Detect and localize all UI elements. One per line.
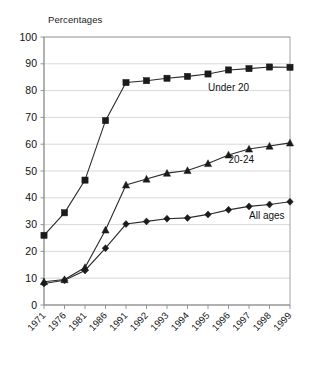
line-chart: Percentages 0102030405060708090100 19711…: [0, 0, 317, 367]
x-tick-label: 1996: [209, 310, 231, 333]
data-point-diamond: [184, 214, 191, 221]
data-point-square: [205, 71, 211, 77]
x-tick-label: 1986: [86, 310, 108, 333]
data-point-triangle: [102, 226, 109, 233]
data-point-diamond: [246, 203, 253, 210]
data-point-square: [184, 73, 190, 79]
y-tick-label: 60: [25, 138, 37, 150]
x-tick-label: 1991: [107, 310, 129, 333]
x-tick-label: 1992: [127, 310, 149, 333]
data-point-square: [143, 78, 149, 84]
data-point-square: [61, 210, 67, 216]
y-tick-label: 90: [25, 57, 37, 69]
data-point-triangle: [286, 139, 293, 146]
series-label: Under 20: [208, 82, 250, 93]
series-label: 20-24: [229, 154, 255, 165]
x-tick-label: 1995: [189, 310, 211, 333]
chart-plot-area: 0102030405060708090100 19711976198119861…: [0, 0, 317, 367]
x-tick-label: 1981: [66, 310, 88, 333]
y-tick-label: 30: [25, 218, 37, 230]
data-series-group: [40, 64, 293, 287]
y-tick-label: 100: [19, 31, 37, 43]
data-point-diamond: [143, 218, 150, 225]
x-axis-ticklabels: 1971197619811986199119921993199419951996…: [25, 305, 293, 333]
y-tick-label: 40: [25, 191, 37, 203]
x-tick-label: 1994: [168, 310, 190, 333]
data-point-diamond: [205, 211, 212, 218]
y-tick-label: 0: [31, 299, 37, 311]
x-tick-label: 1993: [148, 310, 170, 333]
data-point-square: [246, 66, 252, 72]
x-tick-label: 1999: [271, 310, 293, 333]
data-point-diamond: [287, 198, 294, 205]
data-point-square: [102, 118, 108, 124]
x-tick-label: 1997: [230, 310, 252, 333]
data-point-square: [123, 79, 129, 85]
x-tick-label: 1971: [25, 310, 47, 333]
x-tick-label: 1998: [250, 310, 272, 333]
data-point-square: [266, 64, 272, 70]
y-tick-label: 50: [25, 165, 37, 177]
y-tick-label: 80: [25, 84, 37, 96]
y-tick-label: 20: [25, 245, 37, 257]
series-label: All ages: [249, 210, 285, 221]
data-point-square: [225, 67, 231, 73]
data-point-square: [287, 64, 293, 70]
y-tick-label: 70: [25, 111, 37, 123]
x-tick-label: 1976: [45, 310, 67, 333]
data-point-square: [82, 177, 88, 183]
data-point-square: [164, 75, 170, 81]
y-tick-label: 10: [25, 272, 37, 284]
y-axis-ticklabels: 0102030405060708090100: [19, 31, 44, 311]
data-point-square: [41, 232, 47, 238]
data-point-diamond: [225, 206, 232, 213]
data-point-triangle: [204, 160, 211, 167]
data-point-diamond: [266, 201, 273, 208]
data-point-diamond: [164, 215, 171, 222]
